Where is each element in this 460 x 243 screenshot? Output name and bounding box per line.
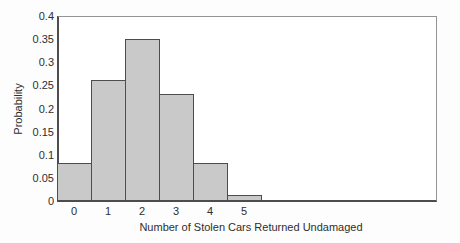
x-tick-label-1: 1 (91, 205, 125, 217)
x-tick-label-0: 0 (57, 205, 91, 217)
bar-category-3 (159, 94, 194, 200)
y-tick-label-0.05: 0.05 (14, 172, 54, 184)
y-tick-label-0.35: 0.35 (14, 33, 54, 45)
probability-histogram-figure: 00.050.10.150.20.250.30.350.4 012345 Pro… (0, 0, 460, 243)
x-axis-title: Number of Stolen Cars Returned Undamaged (57, 221, 445, 233)
bar-category-4 (193, 163, 228, 200)
y-axis-title: Probability (12, 83, 24, 134)
bar-category-2 (125, 39, 160, 200)
y-tick-label-0.4: 0.4 (14, 10, 54, 22)
bar-category-5 (227, 195, 262, 200)
x-tick-label-4: 4 (193, 205, 227, 217)
bar-category-1 (91, 80, 126, 200)
plot-area (57, 16, 437, 202)
y-tick-label-0.3: 0.3 (14, 56, 54, 68)
x-tick-label-2: 2 (125, 205, 159, 217)
bar-category-0 (57, 163, 92, 200)
x-tick-label-5: 5 (227, 205, 261, 217)
y-tick-label-0: 0 (14, 195, 54, 207)
x-tick-label-3: 3 (159, 205, 193, 217)
y-tick-label-0.1: 0.1 (14, 149, 54, 161)
